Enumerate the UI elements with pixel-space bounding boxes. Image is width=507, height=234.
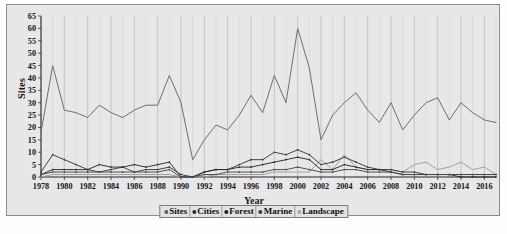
svg-text:15: 15 <box>28 136 36 145</box>
svg-text:1988: 1988 <box>149 182 165 191</box>
series-point <box>168 166 170 168</box>
svg-text:65: 65 <box>28 12 36 21</box>
svg-text:1980: 1980 <box>56 182 72 191</box>
series-point <box>297 166 299 168</box>
series-point <box>145 171 147 173</box>
svg-text:25: 25 <box>28 111 36 120</box>
series-point <box>437 174 439 176</box>
series-line-sites <box>41 28 496 159</box>
series-point <box>460 174 462 176</box>
series-point <box>273 151 275 153</box>
series-point <box>495 174 497 176</box>
series-point <box>343 169 345 171</box>
series-point <box>157 171 159 173</box>
svg-text:2008: 2008 <box>383 182 399 191</box>
series-point <box>343 164 345 166</box>
series-point <box>203 174 205 176</box>
legend-marker-icon <box>192 210 196 214</box>
series-point <box>308 169 310 171</box>
series-point <box>262 164 264 166</box>
series-point <box>460 176 462 178</box>
series-point <box>215 169 217 171</box>
series-point <box>157 164 159 166</box>
series-point <box>110 169 112 171</box>
series-point <box>425 174 427 176</box>
series-point <box>63 159 65 161</box>
series-point <box>402 171 404 173</box>
series-point <box>378 169 380 171</box>
legend-label: Cities <box>197 206 219 217</box>
series-point <box>367 166 369 168</box>
svg-text:0: 0 <box>32 173 36 182</box>
series-point <box>145 169 147 171</box>
svg-text:1982: 1982 <box>79 182 95 191</box>
chart-legend: SitesCitiesForestMarineLandscape <box>159 205 348 218</box>
series-point <box>308 159 310 161</box>
svg-text:55: 55 <box>28 37 36 46</box>
legend-item-forest[interactable]: Forest <box>222 206 256 217</box>
svg-text:30: 30 <box>28 99 36 108</box>
svg-text:1984: 1984 <box>103 182 119 191</box>
series-point <box>52 169 54 171</box>
series-point <box>285 154 287 156</box>
legend-item-sites[interactable]: Sites <box>162 206 190 217</box>
svg-text:1998: 1998 <box>266 182 282 191</box>
series-point <box>273 161 275 163</box>
legend-item-cities[interactable]: Cities <box>190 206 222 217</box>
series-point <box>63 171 65 173</box>
series-point <box>122 171 124 173</box>
axis-lines <box>41 16 496 177</box>
svg-text:40: 40 <box>28 74 36 83</box>
series-line-marine <box>41 167 496 177</box>
series-point <box>355 169 357 171</box>
series-point <box>238 164 240 166</box>
series-point <box>378 171 380 173</box>
svg-text:60: 60 <box>28 24 36 33</box>
svg-text:20: 20 <box>28 123 36 132</box>
series-point <box>40 171 42 173</box>
series-point <box>308 154 310 156</box>
series-point <box>413 174 415 176</box>
series-point <box>332 169 334 171</box>
svg-text:2002: 2002 <box>313 182 329 191</box>
svg-text:1978: 1978 <box>33 182 49 191</box>
series-point <box>110 171 112 173</box>
series-point <box>472 176 474 178</box>
series-point <box>297 149 299 151</box>
series-point <box>110 166 112 168</box>
series-point <box>262 171 264 173</box>
series-point <box>238 166 240 168</box>
series-point <box>262 159 264 161</box>
series-point <box>203 171 205 173</box>
legend-item-landscape[interactable]: Landscape <box>295 206 346 217</box>
series-point <box>355 161 357 163</box>
series-point <box>192 176 194 178</box>
series-point <box>168 169 170 171</box>
series-point <box>63 169 65 171</box>
svg-text:2004: 2004 <box>336 182 352 191</box>
series-point <box>273 169 275 171</box>
legend-label: Landscape <box>302 206 344 217</box>
legend-item-marine[interactable]: Marine <box>257 206 296 217</box>
series-point <box>332 161 334 163</box>
chart-screenshot: Sites 05101520253035404550556065 1978198… <box>0 0 507 234</box>
data-series <box>40 28 497 177</box>
series-point <box>180 174 182 176</box>
plot-area-wrapper: Sites 05101520253035404550556065 1978198… <box>7 5 501 217</box>
line-chart-svg: 05101520253035404550556065 1978198019821… <box>7 5 501 195</box>
legend-marker-icon <box>297 210 301 214</box>
svg-text:2012: 2012 <box>429 182 445 191</box>
series-point <box>320 171 322 173</box>
y-axis-ticks: 05101520253035404550556065 <box>28 12 41 182</box>
series-point <box>402 174 404 176</box>
series-point <box>87 171 89 173</box>
series-point <box>367 171 369 173</box>
svg-text:2000: 2000 <box>289 182 305 191</box>
svg-text:2016: 2016 <box>476 182 492 191</box>
legend-label: Sites <box>169 206 187 217</box>
series-point <box>320 164 322 166</box>
y-axis-title: Sites <box>16 59 27 119</box>
series-point <box>133 171 135 173</box>
series-point <box>75 169 77 171</box>
series-line-landscape <box>41 155 496 177</box>
